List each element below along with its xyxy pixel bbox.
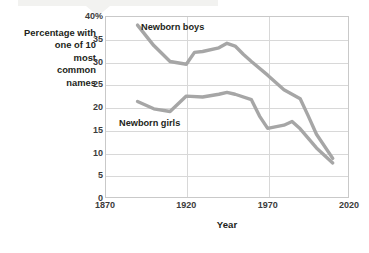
y-tick-label: 15 — [57, 125, 103, 135]
y-tick-label: 10 — [57, 148, 103, 158]
x-tick-label: 1870 — [95, 200, 115, 210]
series-lines — [105, 16, 349, 198]
chart-figure: Percentage with one of 10 most common na… — [0, 0, 369, 253]
y-tick-label: 30 — [57, 57, 103, 67]
series-label-girls: Newborn girls — [119, 118, 180, 128]
x-tick-label: 2020 — [339, 200, 359, 210]
y-tick-label: 5 — [57, 170, 103, 180]
y-tick-label: 25 — [57, 79, 103, 89]
scan-artifact — [18, 0, 218, 16]
y-tick-label: 35 — [57, 34, 103, 44]
y-tick-label: 20 — [57, 102, 103, 112]
y-tick-label: 40% — [57, 11, 103, 21]
x-tick-label: 1970 — [258, 200, 278, 210]
x-tick-label: 1920 — [176, 200, 196, 210]
series-line-newborn-boys — [138, 25, 333, 158]
series-label-boys: Newborn boys — [141, 22, 204, 32]
x-axis-title: Year — [105, 219, 349, 230]
y-axis-ticks: 0510152025303540% — [55, 16, 103, 198]
x-axis-ticks: 1870192019702020 — [105, 200, 349, 214]
